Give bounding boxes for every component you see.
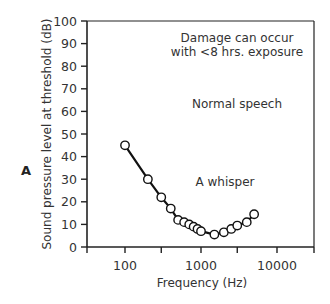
data-point-marker — [250, 210, 258, 218]
data-point-marker — [167, 204, 175, 212]
data-point-marker — [157, 193, 165, 201]
y-tick-label: 50 — [61, 127, 77, 142]
data-point-marker — [197, 227, 205, 235]
y-tick-label: 100 — [53, 14, 77, 29]
x-axis-ticks: 100100010000 — [87, 247, 314, 273]
chart-annotation: Normal speech — [192, 97, 282, 111]
chart-annotation: A whisper — [196, 175, 255, 189]
x-tick-label: 1000 — [185, 258, 217, 273]
y-axis-title: Sound pressure level at threshold (dB) — [40, 18, 54, 249]
chart-annotations: Damage can occurwith <8 hrs. exposureNor… — [171, 31, 303, 189]
y-tick-label: 40 — [61, 149, 77, 164]
panel-label: A — [21, 163, 31, 178]
chart-annotation: Damage can occur — [181, 31, 294, 45]
y-tick-label: 70 — [61, 81, 77, 96]
y-tick-label: 80 — [61, 59, 77, 74]
data-point-marker — [121, 141, 129, 149]
x-tick-label: 10000 — [257, 258, 297, 273]
y-axis-ticks: 0102030405060708090100 — [53, 14, 87, 255]
x-axis-title: Frequency (Hz) — [157, 276, 248, 290]
data-point-marker — [144, 175, 152, 183]
y-tick-label: 60 — [61, 104, 77, 119]
data-point-marker — [210, 230, 218, 238]
y-tick-label: 10 — [61, 217, 77, 232]
chart-annotation: with <8 hrs. exposure — [171, 45, 303, 59]
data-point-marker — [233, 221, 241, 229]
data-series — [121, 141, 259, 239]
x-tick-label: 100 — [113, 258, 137, 273]
y-tick-label: 0 — [69, 240, 77, 255]
y-tick-label: 90 — [61, 36, 77, 51]
y-tick-label: 20 — [61, 194, 77, 209]
hearing-threshold-chart: A 0102030405060708090100 100100010000 So… — [0, 0, 330, 304]
data-point-marker — [243, 218, 251, 226]
y-tick-label: 30 — [61, 172, 77, 187]
